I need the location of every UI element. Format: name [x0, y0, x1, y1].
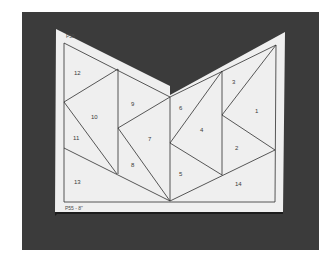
piece-11-label: 11 — [73, 135, 80, 141]
piece-10-label: 10 — [91, 114, 98, 120]
piece-14-label: 14 — [235, 181, 242, 187]
piece-13-label: 13 — [74, 179, 81, 185]
pattern-size-label: P55 - 8" — [65, 205, 83, 211]
pattern-photo: 1 2 3 4 5 6 7 8 9 10 11 12 13 14 P55 P55… — [0, 0, 335, 260]
piece-12-label: 12 — [74, 70, 81, 76]
pattern-top-label: P55 — [66, 33, 75, 39]
